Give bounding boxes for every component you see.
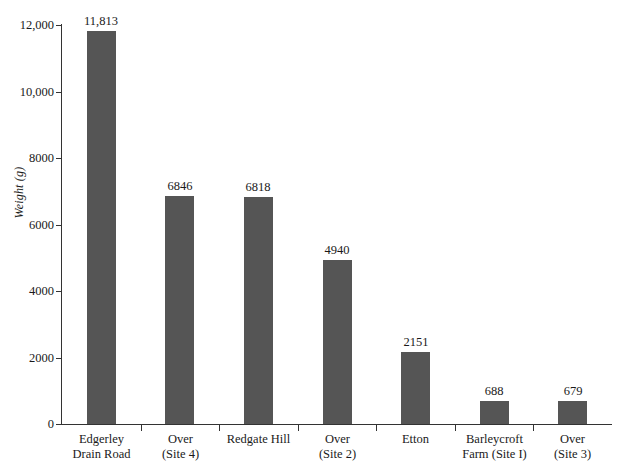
y-axis-tick-label: 2000 (0, 352, 54, 364)
category-label-line-2: Drain Road (62, 447, 141, 462)
x-axis-category-label: BarleycroftFarm (Site I) (455, 432, 534, 462)
y-axis-tick (56, 225, 62, 226)
x-axis-tick (298, 425, 299, 431)
y-axis-tick-label-text: 12,000 (0, 19, 54, 31)
x-axis-category-label: Over(Site 2) (298, 432, 377, 462)
y-axis-tick-label: 10,000 (0, 86, 54, 98)
y-axis-tick-label: 6000 (0, 219, 54, 231)
x-axis-category-label: Redgate Hill (219, 432, 298, 447)
bar[interactable] (401, 352, 430, 424)
y-axis-tick-label: 8000 (0, 152, 54, 164)
bar[interactable] (244, 197, 273, 424)
x-axis-category-label: Over(Site 3) (533, 432, 612, 462)
category-label-line-1: Redgate Hill (227, 432, 291, 446)
y-axis-tick (56, 92, 62, 93)
x-axis-tick (533, 425, 534, 431)
y-axis-tick (56, 358, 62, 359)
category-label-line-1: Barleycroft (466, 432, 523, 446)
category-label-line-1: Over (168, 432, 193, 446)
bar-value-label: 2151 (376, 336, 456, 349)
y-axis-tick-label: 4000 (0, 285, 54, 297)
category-label-line-2: (Site 3) (533, 447, 612, 462)
bar-value-label: 11,813 (61, 15, 141, 28)
y-axis-tick-label: 12,000 (0, 19, 54, 31)
bar[interactable] (87, 31, 116, 424)
x-axis-tick (141, 425, 142, 431)
category-label-line-2: (Site 4) (141, 447, 220, 462)
x-axis-category-label: Etton (376, 432, 455, 447)
category-label-line-1: Over (560, 432, 585, 446)
bar-chart: Weight (g) 0200040006000800010,00012,000… (0, 0, 620, 464)
y-axis-tick (56, 291, 62, 292)
y-axis-tick-label-text: 4000 (0, 285, 54, 297)
y-axis-tick-label-text: 2000 (0, 352, 54, 364)
category-label-line-2: Farm (Site I) (455, 447, 534, 462)
bar[interactable] (323, 260, 352, 424)
x-axis-tick (455, 425, 456, 431)
y-axis-tick (56, 424, 62, 425)
x-axis-category-label: EdgerleyDrain Road (62, 432, 141, 462)
bar-value-label: 6818 (218, 181, 298, 194)
bar-value-label: 4940 (297, 244, 377, 257)
bar-value-label: 679 (533, 385, 613, 398)
y-axis-tick-label-text: 6000 (0, 219, 54, 231)
category-label-line-1: Edgerley (79, 432, 124, 446)
category-label-line-2: (Site 2) (298, 447, 377, 462)
bar-value-label: 6846 (140, 180, 220, 193)
y-axis-tick-label-text: 8000 (0, 152, 54, 164)
y-axis-tick (56, 158, 62, 159)
bar-value-label: 688 (454, 385, 534, 398)
x-axis-tick (376, 425, 377, 431)
y-axis-tick-label: 0 (0, 418, 54, 430)
x-axis-category-label: Over(Site 4) (141, 432, 220, 462)
bar[interactable] (165, 196, 194, 424)
category-label-line-1: Over (325, 432, 350, 446)
category-label-line-1: Etton (402, 432, 429, 446)
bar[interactable] (558, 401, 587, 424)
y-axis-tick-label-text: 0 (0, 418, 54, 430)
bar[interactable] (480, 401, 509, 424)
y-axis-tick-label-text: 10,000 (0, 86, 54, 98)
x-axis-tick (219, 425, 220, 431)
x-axis-line (61, 424, 612, 425)
